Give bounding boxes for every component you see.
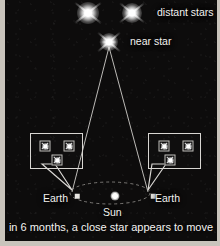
earth-position-left — [75, 194, 80, 199]
night-sky-panel: distant stars near star Earth Earth Sun … — [5, 0, 217, 241]
view-from-earth-right — [148, 133, 201, 169]
boxed-distant-star-left — [40, 141, 51, 152]
sightline-from-earth-right — [109, 47, 148, 192]
label-sun: Sun — [103, 207, 122, 218]
diagram-vector-layer — [5, 0, 217, 241]
label-earth-left: Earth — [43, 193, 68, 204]
boxed-distant-star-right — [64, 141, 75, 152]
sun-marker — [111, 192, 120, 201]
sightline-from-earth-left — [72, 47, 109, 192]
view-from-earth-left — [30, 133, 83, 169]
label-near-star: near star — [130, 36, 171, 47]
label-earth-right: Earth — [155, 193, 180, 204]
boxed-near-star — [165, 155, 176, 166]
boxed-distant-star-right — [183, 141, 194, 152]
parallax-figure: distant stars near star Earth Earth Sun … — [0, 0, 220, 246]
boxed-near-star — [52, 155, 63, 166]
boxed-distant-star-left — [159, 141, 170, 152]
label-distant-stars: distant stars — [157, 7, 214, 18]
figure-caption: in 6 months, a close star appears to mov… — [5, 221, 217, 233]
